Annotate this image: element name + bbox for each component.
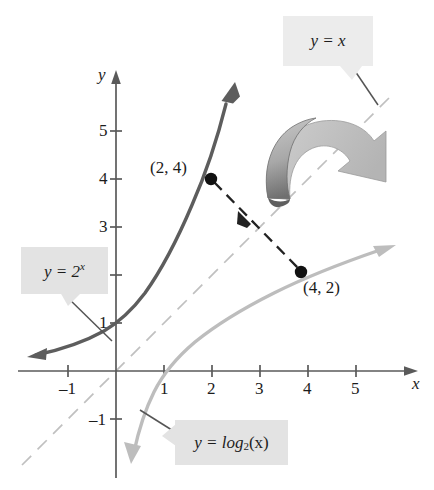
y-tick-label-1: 1: [99, 314, 108, 331]
x-axis-label: x: [412, 375, 420, 392]
exponential-callout-base: y = 2: [44, 261, 80, 280]
exponential-curve: [27, 82, 240, 360]
reflection-rotation-arrow-icon: [266, 118, 386, 207]
logarithm-callout-tail: [162, 424, 176, 446]
y-axis-label: y: [98, 66, 106, 83]
logarithm-exponential-graph-figure: y x –1 1 2 3 4 5 –1 1 3 4 5 (2, 4) (4, 2…: [0, 0, 434, 490]
identity-line-callout-text: y = x: [310, 31, 345, 51]
x-tick-label-5: 5: [351, 380, 360, 397]
point-2-4-marker: [205, 173, 217, 185]
x-tick-label-3: 3: [255, 380, 264, 397]
y-tick-label-5: 5: [99, 122, 108, 139]
exponential-callout-text: y = 2x: [44, 260, 85, 282]
point-2-4-label: (2, 4): [150, 159, 187, 176]
y-tick-label-3: 3: [99, 218, 108, 235]
exponential-callout-exponent: x: [80, 260, 85, 272]
exponential-callout-tail: [60, 292, 82, 306]
point-4-2-marker: [295, 266, 307, 278]
y-tick-label--1: –1: [89, 411, 106, 428]
point-4-2-label: (4, 2): [303, 279, 340, 296]
logarithm-callout-base: y = log: [194, 433, 243, 452]
logarithm-callout: y = log2(x): [175, 420, 288, 465]
logarithm-callout-argument: (x): [249, 433, 269, 452]
plot-canvas: [0, 0, 434, 490]
logarithm-callout-leader: [140, 410, 175, 432]
exponential-callout: y = 2x: [21, 247, 108, 294]
y-tick-label-4: 4: [99, 170, 108, 187]
x-tick-label-2: 2: [207, 380, 216, 397]
identity-callout-leader: [353, 68, 378, 105]
x-tick-label--1: –1: [59, 380, 76, 397]
identity-line-callout: y = x: [283, 16, 373, 66]
logarithm-callout-text: y = log2(x): [194, 433, 269, 453]
x-tick-label-1: 1: [160, 380, 169, 397]
x-axis: [18, 366, 418, 376]
x-tick-label-4: 4: [303, 380, 312, 397]
identity-callout-tail: [340, 66, 362, 80]
